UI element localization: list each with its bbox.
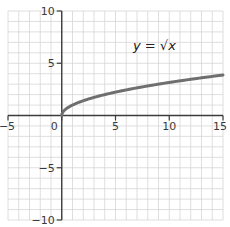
y-tick-label: −10 [32,214,55,227]
x-tick-label: 5 [112,120,119,133]
equation-label: y = √x [132,38,176,53]
sqrt-curve [62,75,223,115]
y-tick-label: −5 [39,162,55,175]
sqrt-function-graph: −5051015−10−5510 y = √x [0,0,230,227]
y-tick-label: 5 [48,57,55,70]
x-tick-label: −5 [0,120,15,133]
x-tick-label: 0 [51,120,58,133]
x-tick-label: 15 [213,120,227,133]
x-tick-label: 10 [162,120,176,133]
y-tick-label: 10 [41,5,55,18]
